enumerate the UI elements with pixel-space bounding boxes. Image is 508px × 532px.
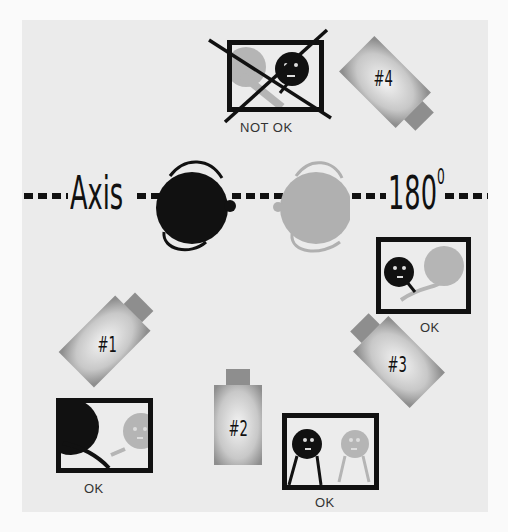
camera-4-text: #4 [373, 66, 392, 91]
camera-2-label: #2 [222, 416, 254, 441]
camera-1-text: #1 [97, 332, 116, 357]
camera-4-label: #4 [367, 66, 399, 91]
camera-2-text: #2 [228, 416, 247, 441]
cameras-layer [0, 0, 508, 532]
camera-1-label: #1 [91, 332, 123, 357]
camera-3-label: #3 [381, 352, 413, 377]
camera-3-text: #3 [387, 352, 406, 377]
